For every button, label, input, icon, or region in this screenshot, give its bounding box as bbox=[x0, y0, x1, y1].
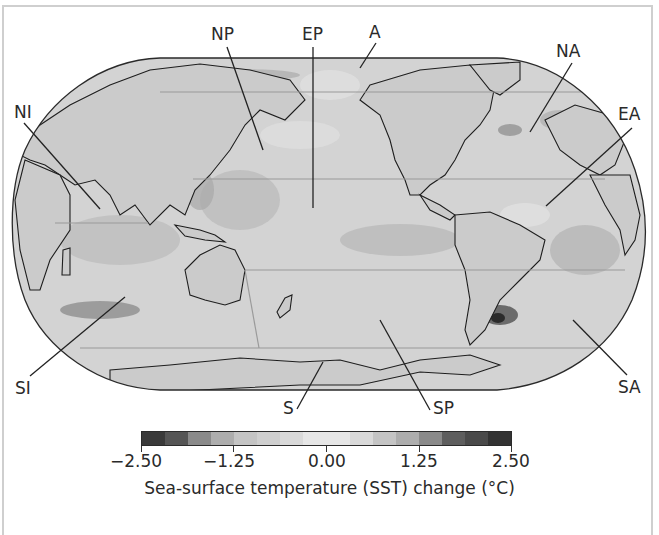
tick-label: −1.25 bbox=[203, 451, 255, 471]
region-label-a: A bbox=[369, 22, 381, 42]
colorbar-segment bbox=[396, 432, 419, 445]
tick-label-max: 2.50 bbox=[492, 451, 530, 471]
colorbar-segment bbox=[303, 432, 326, 445]
colorbar-segment bbox=[142, 432, 165, 445]
colorbar-segment bbox=[211, 432, 234, 445]
colorbar-segment bbox=[465, 432, 488, 445]
ocean-layer bbox=[0, 50, 659, 400]
colorbar-segment bbox=[257, 432, 280, 445]
tick-label-zero: 0.00 bbox=[308, 451, 346, 471]
region-label-ep: EP bbox=[302, 24, 323, 44]
region-label-sp: SP bbox=[433, 398, 454, 418]
region-label-s: S bbox=[283, 398, 294, 418]
colorbar-segment bbox=[373, 432, 396, 445]
region-label-np: NP bbox=[211, 24, 234, 44]
tick-label: 1.25 bbox=[400, 451, 438, 471]
colorbar-segment bbox=[488, 432, 511, 445]
region-label-ea: EA bbox=[618, 104, 641, 124]
region-label-ni: NI bbox=[14, 102, 32, 122]
region-label-si: SI bbox=[15, 378, 31, 398]
colorbar-title: Sea-surface temperature (SST) change (°C… bbox=[0, 478, 659, 498]
colorbar-segment bbox=[350, 432, 373, 445]
region-label-na: NA bbox=[556, 41, 581, 61]
sst-colorbar bbox=[141, 431, 512, 446]
colorbar-segment bbox=[188, 432, 211, 445]
tick-label-min: −2.50 bbox=[110, 451, 162, 471]
colorbar-segment bbox=[165, 432, 188, 445]
region-label-sa: SA bbox=[618, 377, 641, 397]
colorbar-segment bbox=[419, 432, 442, 445]
colorbar-segment bbox=[234, 432, 257, 445]
colorbar-segment bbox=[442, 432, 465, 445]
colorbar-segment bbox=[327, 432, 350, 445]
colorbar-segment bbox=[280, 432, 303, 445]
world-map: NP EP A NA NI EA SI S SP SA bbox=[0, 0, 659, 430]
